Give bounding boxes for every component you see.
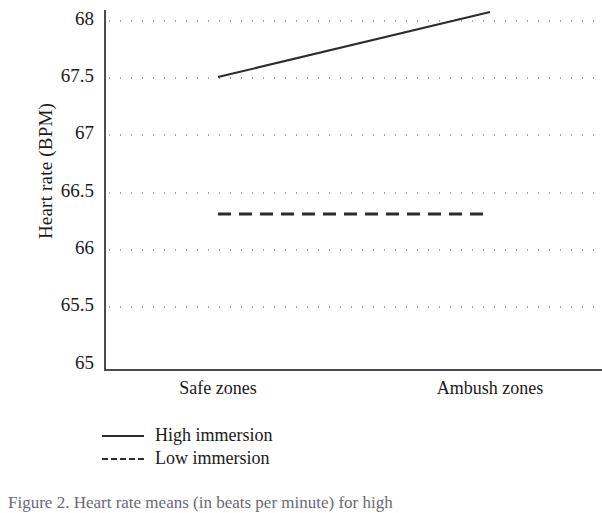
legend-label: Low immersion [146,448,270,469]
legend-solid-line-icon [100,429,146,443]
legend-label: High immersion [146,425,273,446]
legend-dashed-line-icon [100,452,146,466]
figure-caption: Figure 2. Heart rate means (in beats per… [8,492,600,513]
legend-item-low-immersion: Low immersion [100,447,400,470]
legend: High immersion Low immersion [100,424,400,470]
series-high-immersion-line [218,12,490,77]
legend-item-high-immersion: High immersion [100,424,400,447]
